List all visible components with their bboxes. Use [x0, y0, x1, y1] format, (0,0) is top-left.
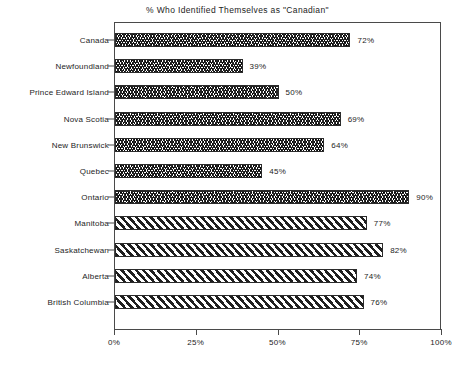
bar — [115, 243, 383, 257]
category-label: Quebec — [80, 167, 109, 176]
category-label: Nova Scotia — [64, 114, 109, 123]
bar — [115, 216, 367, 230]
category-row: New Brunswick64% — [0, 132, 475, 158]
category-tick — [108, 302, 114, 303]
bar — [115, 85, 279, 99]
chart-title: % Who Identified Themselves as "Canadian… — [0, 5, 475, 15]
category-row: Canada72% — [0, 27, 475, 53]
x-tick-label: 50% — [269, 338, 286, 347]
category-tick — [108, 144, 114, 145]
category-label: Canada — [80, 36, 109, 45]
bar-value-label: 64% — [331, 140, 348, 149]
bar — [115, 164, 262, 178]
x-tick — [441, 330, 442, 335]
bar — [115, 138, 324, 152]
x-tick-label: 100% — [430, 338, 452, 347]
x-tick — [114, 330, 115, 335]
bar — [115, 190, 409, 204]
category-label: Alberta — [82, 271, 109, 280]
bar-value-label: 69% — [348, 114, 365, 123]
bar-value-label: 39% — [250, 62, 267, 71]
category-row: Newfoundland39% — [0, 53, 475, 79]
bar-chart: % Who Identified Themselves as "Canadian… — [0, 0, 475, 369]
bar — [115, 295, 364, 309]
category-label: British Columbia — [48, 298, 109, 307]
category-tick — [108, 118, 114, 119]
x-tick — [278, 330, 279, 335]
bar-value-label: 77% — [374, 219, 391, 228]
bar-value-label: 76% — [371, 298, 388, 307]
bar-value-label: 72% — [357, 36, 374, 45]
category-label: New Brunswick — [52, 140, 109, 149]
bar-value-label: 50% — [286, 88, 303, 97]
bar-value-label: 90% — [416, 193, 433, 202]
category-tick — [108, 171, 114, 172]
category-row: British Columbia76% — [0, 289, 475, 315]
category-tick — [108, 40, 114, 41]
category-tick — [108, 197, 114, 198]
category-tick — [108, 249, 114, 250]
bar — [115, 112, 341, 126]
category-label: Ontario — [81, 193, 109, 202]
category-label: Newfoundland — [55, 62, 109, 71]
x-tick — [196, 330, 197, 335]
category-tick — [108, 275, 114, 276]
category-label: Manitoba — [74, 219, 109, 228]
category-label: Prince Edward Island — [29, 88, 109, 97]
category-tick — [108, 223, 114, 224]
category-row: Prince Edward Island50% — [0, 79, 475, 105]
category-row: Nova Scotia69% — [0, 106, 475, 132]
x-tick-label: 0% — [108, 338, 120, 347]
x-tick — [359, 330, 360, 335]
category-tick — [108, 92, 114, 93]
bar-value-label: 74% — [364, 271, 381, 280]
bar — [115, 269, 357, 283]
category-row: Quebec45% — [0, 158, 475, 184]
bar-value-label: 82% — [390, 245, 407, 254]
bar — [115, 59, 243, 73]
category-row: Manitoba77% — [0, 210, 475, 236]
category-row: Alberta74% — [0, 263, 475, 289]
category-label: Saskatchewan — [55, 245, 109, 254]
category-row: Ontario90% — [0, 184, 475, 210]
x-tick-label: 25% — [187, 338, 204, 347]
bar-value-label: 45% — [269, 167, 286, 176]
x-tick-label: 75% — [351, 338, 368, 347]
bar — [115, 33, 350, 47]
category-tick — [108, 66, 114, 67]
category-row: Saskatchewan82% — [0, 237, 475, 263]
